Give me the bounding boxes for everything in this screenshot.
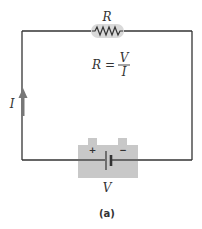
battery-negative-sign: − [119, 145, 127, 155]
circuit-diagram: R R = V I I + − V (a) [0, 0, 202, 229]
resistor-label: R [101, 10, 111, 24]
figure-caption: (a) [99, 208, 115, 219]
resistor: R [91, 10, 124, 38]
equation-lhs: R = [91, 58, 115, 72]
equation-numerator: V [120, 51, 130, 65]
battery: + − V [78, 138, 138, 195]
current-indicator: I [9, 88, 28, 116]
circuit-wires [22, 31, 192, 160]
battery-body [78, 145, 138, 178]
current-label: I [9, 97, 15, 111]
battery-voltage-label: V [103, 181, 113, 195]
equation-denominator: I [121, 65, 127, 79]
battery-positive-sign: + [89, 145, 97, 155]
current-arrow-up-icon [19, 88, 28, 98]
ohms-law-equation: R = V I [91, 51, 130, 79]
